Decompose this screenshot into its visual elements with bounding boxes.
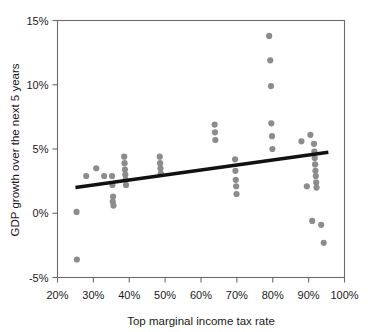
- data-point: [157, 154, 163, 160]
- plot-area-frame: [58, 21, 345, 278]
- y-tick-label: 5%: [33, 143, 49, 155]
- y-tick-marks: [53, 21, 58, 278]
- x-tick-label: 100%: [330, 289, 358, 301]
- y-axis-title-label: GDP growth over the next 5 years: [9, 63, 21, 236]
- data-point: [313, 173, 319, 179]
- data-point: [101, 173, 107, 179]
- data-point: [74, 256, 80, 262]
- data-point: [123, 182, 129, 188]
- data-point: [212, 137, 218, 143]
- x-tick-marks: [58, 278, 345, 283]
- y-tick-labels: -5%0%5%10%15%: [26, 15, 48, 284]
- data-point: [321, 240, 327, 246]
- data-point: [307, 132, 313, 138]
- y-axis-title: GDP growth over the next 5 years: [9, 63, 21, 236]
- scatter-chart: GDP growth over the next 5 years Top mar…: [0, 0, 368, 332]
- data-point: [121, 154, 127, 160]
- data-point: [269, 133, 275, 139]
- data-point-group: [73, 33, 326, 263]
- x-tick-label: 20%: [46, 289, 68, 301]
- data-point: [269, 146, 275, 152]
- data-point: [267, 57, 273, 63]
- x-tick-label: 60%: [190, 289, 212, 301]
- y-tick-label: 15%: [26, 15, 48, 27]
- x-tick-labels: 20%30%40%50%60%70%80%90%100%: [46, 289, 358, 301]
- data-point: [109, 173, 115, 179]
- data-point: [313, 184, 319, 190]
- data-point: [298, 138, 304, 144]
- y-tick-label: 0%: [33, 207, 49, 219]
- data-point: [83, 173, 89, 179]
- trend-line: [75, 152, 328, 187]
- data-point: [233, 191, 239, 197]
- data-point: [73, 209, 79, 215]
- y-tick-label: 10%: [26, 79, 48, 91]
- data-point: [110, 202, 116, 208]
- x-tick-label: 30%: [82, 289, 104, 301]
- data-point: [318, 222, 324, 228]
- data-point: [110, 193, 116, 199]
- x-tick-label: 90%: [298, 289, 320, 301]
- data-point: [266, 33, 272, 39]
- chart-canvas: GDP growth over the next 5 years Top mar…: [0, 0, 368, 332]
- data-point: [312, 161, 318, 167]
- data-point: [93, 165, 99, 171]
- x-tick-label: 70%: [226, 289, 248, 301]
- data-point: [233, 177, 239, 183]
- data-point: [232, 156, 238, 162]
- data-point: [232, 168, 238, 174]
- data-point: [233, 183, 239, 189]
- data-point: [212, 129, 218, 135]
- data-point: [309, 218, 315, 224]
- x-tick-label: 40%: [118, 289, 140, 301]
- data-point: [212, 121, 218, 127]
- data-point: [268, 83, 274, 89]
- y-tick-label: -5%: [29, 272, 49, 284]
- data-point: [121, 160, 127, 166]
- data-point: [304, 183, 310, 189]
- x-axis-title: Top marginal income tax rate: [127, 315, 275, 327]
- x-axis-title-label: Top marginal income tax rate: [127, 315, 275, 327]
- x-tick-label: 50%: [154, 289, 176, 301]
- data-point: [268, 120, 274, 126]
- data-point: [311, 141, 317, 147]
- x-tick-label: 80%: [262, 289, 284, 301]
